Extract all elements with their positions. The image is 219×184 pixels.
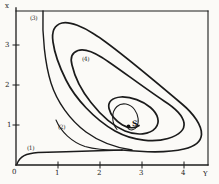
fixed-point-label: S (132, 120, 137, 128)
spiral-trajectory-curve (53, 23, 202, 152)
y-tick-label-1: 1 (7, 121, 11, 129)
fixed-point-marker (127, 125, 131, 129)
origin-tick-label: 0 (12, 168, 16, 176)
x-tick-label-1: 1 (55, 169, 59, 177)
y-tick-label-2: 2 (5, 81, 9, 89)
trajectory-4-label: (4) (82, 55, 89, 62)
trajectory-3-label: (3) (30, 14, 37, 21)
phase-portrait-figure: x Y 0 3 2 1 1 2 3 4 (3) (4) (2) (1) S (0, 0, 219, 184)
x-tick-label-2: 2 (97, 169, 101, 177)
x-tick-label-3: 3 (139, 169, 143, 177)
trajectory-1-label: (1) (27, 144, 34, 151)
trajectory-2-label: (2) (58, 123, 65, 130)
x-tick-label-4: 4 (181, 169, 185, 177)
trajectory-3-curve (43, 11, 132, 150)
y-axis-title: x (5, 2, 9, 10)
y-tick-label-3: 3 (5, 41, 9, 49)
phase-plot-canvas (0, 0, 219, 184)
trajectory-1-curve (17, 150, 122, 164)
x-axis-title: Y (203, 170, 208, 178)
